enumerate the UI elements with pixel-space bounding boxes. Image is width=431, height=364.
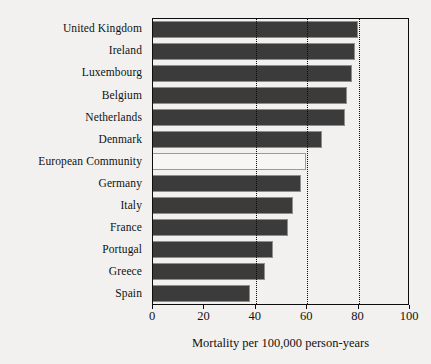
x-tick-label: 20 [197, 310, 210, 323]
bar-slot [153, 194, 408, 216]
x-axis: 020406080100 [152, 305, 409, 331]
category-label: Ireland [0, 40, 147, 62]
x-tick-label: 40 [249, 310, 262, 323]
bar-slot [153, 41, 408, 63]
category-label: Spain [0, 283, 147, 305]
bar [152, 65, 352, 82]
x-axis-title: Mortality per 100,000 person-years [152, 337, 409, 350]
bar-slot [153, 107, 408, 129]
category-label: United Kingdom [0, 18, 147, 40]
x-tick-label: 100 [400, 310, 419, 323]
bar [152, 241, 273, 258]
bar [152, 109, 345, 126]
bar [152, 87, 347, 104]
bar-slot [153, 216, 408, 238]
bar-slot [153, 260, 408, 282]
bar [152, 219, 288, 236]
bar [152, 43, 355, 60]
category-label: Denmark [0, 128, 147, 150]
x-tick-label: 0 [149, 310, 155, 323]
bar-slot [153, 172, 408, 194]
bar [152, 197, 293, 214]
bar-slot [153, 85, 408, 107]
x-tick-label: 60 [300, 310, 313, 323]
bar [152, 153, 306, 170]
category-label: Netherlands [0, 106, 147, 128]
category-label: Italy [0, 195, 147, 217]
category-label: Germany [0, 173, 147, 195]
category-axis: United Kingdom Ireland Luxembourg Belgiu… [0, 18, 147, 305]
bar [152, 285, 250, 302]
category-label: Portugal [0, 239, 147, 261]
category-label: Belgium [0, 84, 147, 106]
x-tick-label: 80 [351, 310, 364, 323]
category-label: Luxembourg [0, 62, 147, 84]
category-label: Greece [0, 261, 147, 283]
bar [152, 175, 301, 192]
category-label: European Community [0, 150, 147, 172]
category-label: France [0, 217, 147, 239]
bars-layer [153, 19, 408, 304]
bar-chart: United Kingdom Ireland Luxembourg Belgiu… [0, 0, 431, 364]
bar-slot [153, 238, 408, 260]
bar-slot [153, 129, 408, 151]
bar-slot [153, 282, 408, 304]
bar-slot [153, 151, 408, 173]
bar-slot [153, 19, 408, 41]
bar [152, 263, 265, 280]
bar [152, 131, 322, 148]
bar-slot [153, 63, 408, 85]
bar [152, 21, 358, 38]
plot-area [152, 18, 409, 305]
